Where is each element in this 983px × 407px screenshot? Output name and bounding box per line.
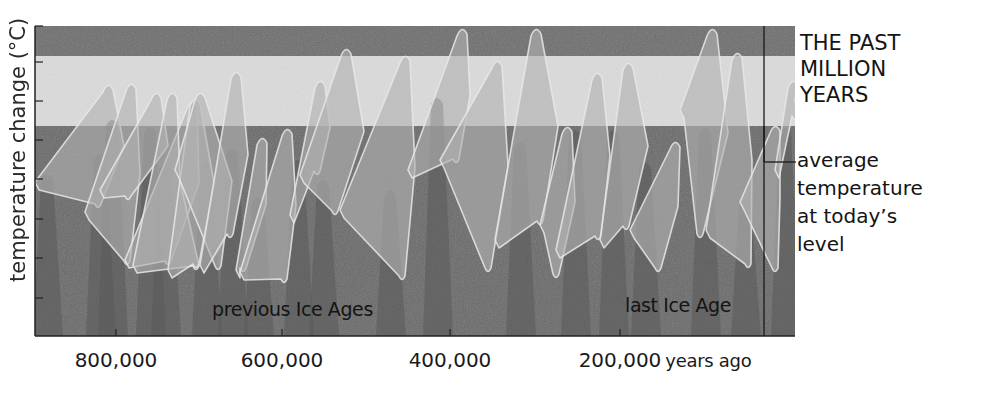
y-axis-label: temperature change (°C) bbox=[6, 62, 30, 282]
annotation-line-2: temperature bbox=[797, 174, 923, 202]
annotation-line-4: level bbox=[797, 230, 923, 258]
x-tick-400000: 400,000 bbox=[409, 348, 492, 372]
x-tick-200000-value: 200,000 bbox=[579, 348, 662, 372]
today-level-annotation: average temperature at today’s level bbox=[797, 146, 923, 258]
title-line-2: MILLION bbox=[800, 56, 900, 82]
title-line-3: YEARS bbox=[800, 82, 900, 108]
last-ice-age-label: last Ice Age bbox=[625, 294, 731, 316]
chart-title: THE PAST MILLION YEARS bbox=[800, 30, 900, 108]
annotation-line-3: at today’s bbox=[797, 202, 923, 230]
x-tick-800000: 800,000 bbox=[75, 348, 158, 372]
x-tick-200000: 200,000years ago bbox=[579, 348, 752, 372]
annotation-line-1: average bbox=[797, 146, 923, 174]
x-axis-unit: years ago bbox=[665, 350, 751, 371]
previous-ice-ages-label: previous Ice Ages bbox=[212, 298, 373, 320]
title-line-1: THE PAST bbox=[800, 30, 900, 56]
x-tick-600000: 600,000 bbox=[241, 348, 324, 372]
